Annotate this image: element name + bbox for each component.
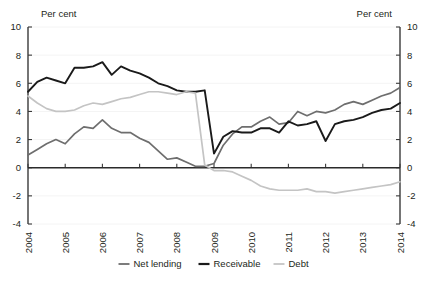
y-axis-right-unit-label: Per cent	[357, 8, 393, 19]
x-axis-tick-label: 2004	[23, 232, 34, 253]
y-axis-right-tick-label: -4	[407, 218, 415, 229]
legend-label-receivable: Receivable	[214, 258, 261, 269]
y-axis-left-tick-label: -2	[13, 190, 21, 201]
x-axis-tick-label: 2006	[97, 232, 108, 253]
y-axis-left-tick-label: 6	[16, 78, 21, 89]
line-chart: 1086420-2-4 1086420-2-4 2004200520062007…	[0, 0, 426, 281]
y-axis-right-labels: 1086420-2-4	[407, 21, 418, 229]
x-axis-tick-label: 2008	[171, 232, 182, 253]
y-axis-right-tick-label: 8	[407, 50, 412, 61]
chart-container: 1086420-2-4 1086420-2-4 2004200520062007…	[0, 0, 426, 281]
data-series	[28, 62, 400, 193]
y-axis-right-tick-label: 4	[407, 106, 412, 117]
chart-legend: Net lendingReceivableDebt	[119, 258, 309, 269]
x-axis-tick-label: 2012	[320, 232, 331, 253]
y-axis-left-tick-label: 2	[16, 134, 21, 145]
y-axis-left-tick-label: 10	[10, 21, 21, 32]
y-axis-right-tick-label: 10	[407, 21, 418, 32]
y-axis-left-tick-label: 4	[16, 106, 21, 117]
y-axis-left-tick-label: 0	[16, 162, 21, 173]
y-axis-left-unit-label: Per cent	[41, 8, 77, 19]
x-axis-labels: 2004200520062007200820092010201120122013…	[23, 232, 406, 253]
legend-label-debt: Debt	[289, 258, 309, 269]
gridlines	[28, 27, 400, 224]
x-axis-tick-label: 2007	[134, 232, 145, 253]
y-axis-right-tick-label: 0	[407, 162, 412, 173]
y-axis-left-tick-label: 8	[16, 50, 21, 61]
y-axis-left-tick-label: -4	[13, 218, 21, 229]
x-axis-tick-label: 2011	[283, 232, 294, 252]
x-axis-tick-label: 2010	[246, 232, 257, 253]
x-axis-tick-label: 2009	[209, 232, 220, 253]
x-axis-tick-label: 2013	[357, 232, 368, 253]
series-line-debt	[28, 92, 400, 193]
y-axis-right-tick-label: -2	[407, 190, 415, 201]
x-axis-tick-label: 2014	[395, 232, 406, 253]
legend-label-net-lending: Net lending	[134, 258, 182, 269]
x-axis-tick-label: 2005	[60, 232, 71, 253]
y-axis-right-tick-label: 2	[407, 134, 412, 145]
y-axis-right-tick-label: 6	[407, 78, 412, 89]
y-axis-left-labels: 1086420-2-4	[10, 21, 21, 229]
